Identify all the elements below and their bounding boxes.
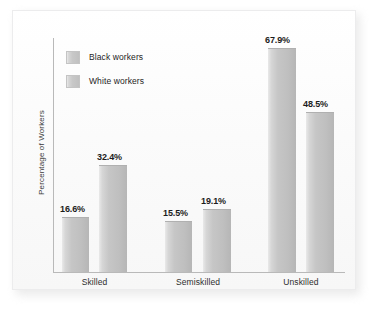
bar-value-skilled-white-workers: 32.4%	[97, 152, 122, 162]
y-axis-title: Percentage of Workers	[37, 93, 46, 213]
x-axis-label-unskilled: Unskilled	[268, 277, 334, 287]
bar-value-semiskilled-white-workers: 19.1%	[201, 196, 226, 206]
x-axis-label-skilled: Skilled	[62, 277, 127, 287]
bar-skilled-white-workers[interactable]	[99, 165, 127, 272]
bar-semiskilled-white-workers[interactable]	[203, 209, 231, 272]
bar-value-unskilled-white-workers: 48.5%	[303, 99, 328, 109]
bar-semiskilled-black-workers[interactable]	[165, 221, 192, 272]
legend-item-white-workers: White workers	[66, 71, 144, 91]
bar-unskilled-black-workers[interactable]	[268, 48, 296, 272]
plot-area: Percentage of Workers Black workers Whit…	[0, 0, 377, 311]
bar-unskilled-white-workers[interactable]	[306, 112, 334, 272]
legend-swatch-icon	[66, 51, 80, 64]
y-axis-line	[53, 38, 54, 272]
bar-value-unskilled-black-workers: 67.9%	[265, 35, 290, 45]
x-axis-label-semiskilled: Semiskilled	[165, 277, 231, 287]
legend-swatch-icon	[66, 75, 80, 88]
legend-label: Black workers	[89, 52, 143, 62]
bar-value-semiskilled-black-workers: 15.5%	[163, 208, 188, 218]
chart-figure: Percentage of Workers Black workers Whit…	[0, 0, 377, 311]
x-axis-line	[53, 272, 345, 273]
chart-legend: Black workers White workers	[66, 47, 144, 95]
legend-label: White workers	[89, 76, 144, 86]
bar-value-skilled-black-workers: 16.6%	[60, 204, 85, 214]
bar-skilled-black-workers[interactable]	[62, 217, 89, 272]
legend-item-black-workers: Black workers	[66, 47, 144, 67]
